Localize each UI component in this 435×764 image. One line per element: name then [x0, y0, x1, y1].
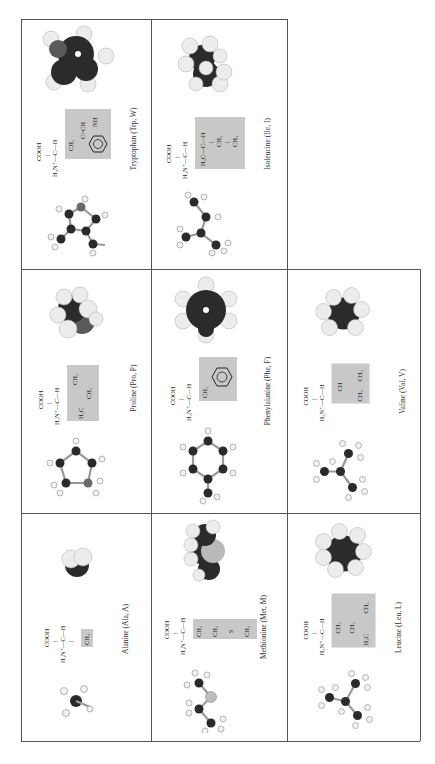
cell-proline: COOH | H₂N⁺—C—H H₂C CH₂ CH₂ Proline (Pro… — [21, 269, 151, 513]
structural-formula: COOH | H₃N⁺—C—H | CH₃ — [43, 593, 75, 663]
ball-and-stick-model-icon — [41, 189, 111, 259]
space-filling-model-icon — [313, 522, 373, 582]
space-filling-model-icon — [315, 286, 371, 342]
structural-formula: COOH | H₃N⁺—C—H CH₂ — [169, 351, 193, 421]
carboxyl-group: COOH — [35, 107, 43, 177]
caption-phenylalanine: Phenylalanine (Phe, F) — [263, 351, 272, 431]
ball-and-stick-model-icon — [312, 432, 372, 502]
ball-and-stick-model-icon — [56, 681, 96, 721]
side-chain-box: CH CH₃ CH₃ — [331, 364, 369, 404]
ball-and-stick-model-icon — [176, 187, 236, 257]
structural-formula: COOH | H₃N⁺—C—H CH₂ CH₂ S CH₃ — [163, 585, 187, 655]
caption-isoleucine: Isoleucine (Ile, I) — [263, 104, 272, 184]
structural-formula: COOH | H₂N⁺—C—H H₂C CH₂ CH₂ — [37, 355, 61, 425]
caption-methionine: Methionine (Met, M) — [259, 587, 268, 667]
ball-and-stick-model-icon — [46, 433, 106, 503]
space-filling-model-icon — [181, 519, 231, 583]
side-chain-box: H₃C—C—H | CH₂ | CH₃ — [195, 117, 245, 169]
cell-valine: COOH | H₃N⁺—C—H CH CH₃ CH₃ Valine (Val, … — [287, 269, 420, 513]
structural-formula: COOH | H₃N⁺—C—H CH₂ C=CH NH — [35, 107, 59, 177]
ball-and-stick-model-icon — [181, 663, 231, 733]
cell-tryptophan: COOH | H₃N⁺—C—H CH₂ C=CH NH Tryptophan (… — [21, 19, 151, 269]
side-chain-box: CH₂ CH₂ S CH₃ — [193, 619, 257, 639]
cell-leucine: COOH | H₃N⁺—C—H CH₂ CH₂ H₃C CH₃ Leucine … — [287, 513, 420, 741]
caption-alanine: Alanine (Ala, A) — [121, 589, 130, 669]
amino-group: H₃N⁺—C—H — [51, 107, 59, 177]
side-chain-box: H₂C CH₂ CH₂ — [67, 365, 99, 421]
space-filling-model-icon — [176, 34, 236, 94]
structural-formula: COOH | H₃N⁺—C—H CH₂ CH₂ H₃C CH₃ — [301, 586, 325, 656]
side-chain-box: CH₂ — [199, 357, 237, 401]
benzene-ring-icon — [87, 133, 109, 155]
caption-leucine: Leucine (Leu, L) — [393, 588, 402, 668]
caption-valine: Valine (Val, V) — [397, 352, 406, 432]
caption-proline: Proline (Pro, P) — [129, 348, 138, 428]
space-filling-model-icon — [59, 545, 95, 581]
caption-tryptophan: Tryptophan (Trp, W) — [129, 99, 138, 179]
space-filling-model-icon — [171, 275, 241, 345]
side-chain-box: CH₂ C=CH NH — [65, 109, 111, 159]
ball-and-stick-model-icon — [173, 425, 243, 505]
cell-phenylalanine: COOH | H₃N⁺—C—H CH₂ Phenylalanine (Phe, … — [151, 269, 287, 513]
border-right-upper — [287, 19, 288, 269]
side-chain-box: CH₂ CH₂ H₃C CH₃ — [331, 594, 375, 648]
ball-and-stick-model-icon — [315, 662, 375, 732]
side-chain-box: CH₃ — [81, 629, 93, 647]
cell-alanine: COOH | H₃N⁺—C—H | CH₃ Alanine (Ala, A) — [21, 513, 151, 741]
cell-methionine: COOH | H₃N⁺—C—H CH₂ CH₂ S CH₃ Methionine… — [151, 513, 287, 741]
structural-formula: COOH | H₃N⁺—C—H CH CH₃ CH₃ — [301, 352, 325, 422]
structural-formula: COOH | H₃N⁺—C—H H₃C—C—H | CH₂ | CH₃ — [165, 109, 189, 179]
cell-isoleucine: COOH | H₃N⁺—C—H H₃C—C—H | CH₂ | CH₃ Isol… — [151, 19, 287, 269]
benzene-ring-icon — [210, 365, 234, 389]
space-filling-model-icon — [46, 283, 106, 343]
space-filling-model-icon — [36, 24, 116, 94]
